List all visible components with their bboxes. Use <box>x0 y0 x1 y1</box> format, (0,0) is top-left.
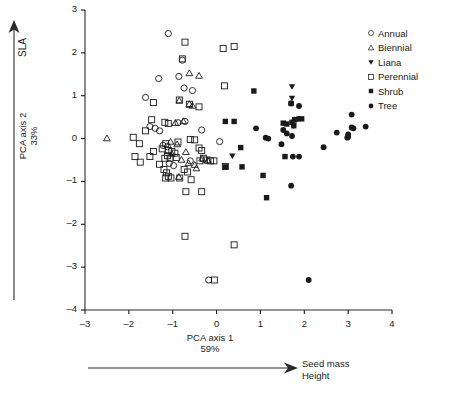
x-tick-label: –2 <box>109 318 149 329</box>
y-axis-ticks <box>81 10 85 310</box>
data-point <box>345 131 351 137</box>
x-tick-label: 4 <box>372 318 412 329</box>
data-point <box>156 75 162 81</box>
data-point <box>187 136 193 142</box>
data-point <box>137 159 143 165</box>
x-tick-label: 3 <box>328 318 368 329</box>
series-tree <box>253 101 368 283</box>
data-point <box>182 39 188 45</box>
data-point <box>264 195 269 200</box>
x-axis-ticks <box>85 310 392 314</box>
data-point <box>176 73 182 79</box>
y-tick-label: –2 <box>0 217 77 228</box>
legend-item-liana[interactable]: Liana <box>364 55 454 70</box>
sla-arrow-label: SLA <box>17 23 28 73</box>
data-point <box>321 144 327 150</box>
data-point <box>334 130 340 136</box>
data-point <box>199 189 205 195</box>
data-point <box>296 103 302 109</box>
legend: AnnualBiennialLianaPerennialShrubTree <box>364 26 454 113</box>
legend-label: Biennial <box>378 42 412 53</box>
open-triangle-up-icon <box>364 42 378 54</box>
legend-item-shrub[interactable]: Shrub <box>364 84 454 99</box>
data-point <box>349 112 355 118</box>
series-biennial <box>104 70 212 180</box>
data-point <box>351 125 357 131</box>
data-point <box>239 164 244 169</box>
data-point <box>149 117 155 123</box>
data-point <box>183 189 189 195</box>
data-point <box>306 277 312 283</box>
data-point <box>223 164 228 169</box>
data-point <box>183 149 190 155</box>
gradient-arrow-label: Seed mass Height <box>302 358 350 382</box>
data-point <box>182 233 188 239</box>
data-point-layer <box>104 30 369 283</box>
legend-label: Tree <box>378 100 397 111</box>
data-point <box>196 104 202 110</box>
data-point <box>185 160 192 166</box>
gradient-label-line1: Seed mass <box>302 358 350 370</box>
data-point <box>251 88 256 93</box>
filled-triangle-down-icon <box>364 56 378 68</box>
data-point <box>290 154 296 160</box>
legend-item-annual[interactable]: Annual <box>364 26 454 41</box>
y-tick-label: –3 <box>0 260 77 271</box>
y-tick-label: –4 <box>0 303 77 314</box>
data-point <box>188 177 194 183</box>
data-point <box>192 137 198 143</box>
x-axis-variance-label: 59% <box>150 343 270 354</box>
data-point <box>142 94 148 100</box>
data-point <box>220 46 226 52</box>
data-point <box>199 127 205 133</box>
y-tick-label: 3 <box>0 3 77 14</box>
data-point <box>291 123 296 128</box>
data-point <box>206 277 212 283</box>
x-axis-title-line1: PCA axis 1 <box>187 332 233 343</box>
legend-label: Liana <box>378 57 401 68</box>
data-point <box>132 154 138 160</box>
data-point <box>284 121 289 126</box>
legend-item-tree[interactable]: Tree <box>364 99 454 114</box>
legend-item-perennial[interactable]: Perennial <box>364 70 454 85</box>
data-point <box>284 131 290 137</box>
data-point <box>296 154 302 160</box>
data-point <box>186 70 193 76</box>
legend-label: Perennial <box>378 71 418 82</box>
data-point <box>363 124 369 130</box>
data-point <box>193 165 200 171</box>
x-tick-label: –3 <box>65 318 105 329</box>
x-tick-label: 0 <box>197 318 237 329</box>
data-point <box>279 141 285 147</box>
data-point <box>265 136 271 142</box>
data-point <box>253 125 259 131</box>
y-axis-variance-label: 33% <box>28 81 39 191</box>
data-point <box>288 183 294 189</box>
data-point <box>231 119 236 124</box>
data-point <box>167 138 174 144</box>
data-point <box>136 141 142 147</box>
data-point <box>238 145 243 150</box>
filled-square-icon <box>364 85 378 97</box>
pca-ordination-figure: –3–2–101234 3210–1–2–3–4 PCA axis 1 59% … <box>0 0 455 400</box>
filled-circle-icon <box>364 100 378 112</box>
open-square-icon <box>364 71 378 83</box>
data-point <box>104 135 111 141</box>
data-point <box>221 83 227 89</box>
x-tick-label: –1 <box>153 318 193 329</box>
legend-label: Annual <box>378 28 408 39</box>
legend-item-biennial[interactable]: Biennial <box>364 41 454 56</box>
open-circle-icon <box>364 27 378 39</box>
gradient-label-line2: Height <box>302 370 350 382</box>
y-axis-title-line1: PCA axis 2 <box>17 113 28 159</box>
data-point <box>189 87 195 93</box>
data-point <box>289 133 295 139</box>
seed-mass-height-arrow <box>88 363 298 374</box>
data-point <box>288 101 294 107</box>
data-point <box>229 154 235 160</box>
data-point <box>282 154 287 159</box>
data-point <box>223 119 228 124</box>
data-point <box>150 100 156 106</box>
data-point <box>289 84 295 90</box>
data-point <box>231 242 237 248</box>
